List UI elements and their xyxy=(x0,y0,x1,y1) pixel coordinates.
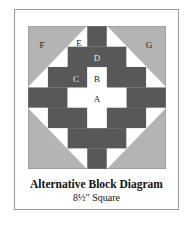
label-g: G xyxy=(146,41,153,50)
label-f: F xyxy=(39,41,44,50)
label-c: C xyxy=(73,75,79,84)
label-b: B xyxy=(94,75,100,84)
label-e: E xyxy=(76,39,82,48)
label-d: D xyxy=(94,54,101,63)
diagram-title: Alternative Block Diagram xyxy=(14,178,179,190)
label-a: A xyxy=(94,95,101,104)
diagram-subtitle: 8½" Square xyxy=(14,192,179,203)
